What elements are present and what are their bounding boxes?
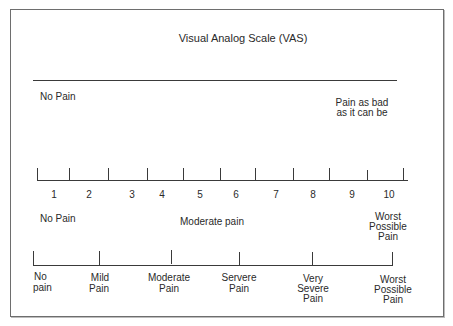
scale-number: 8 [310,189,316,200]
vas-left-label: No Pain [40,91,76,102]
scale-number: 5 [197,189,203,200]
descriptive-label-no-pain-2: pain [33,282,52,293]
numeric-tick [108,168,109,180]
scale-number: 4 [159,189,165,200]
numeric-tick [367,170,368,180]
descriptive-label-no-pain-1: No [34,271,47,282]
vas-right-label-2: as it can be [336,107,387,118]
descriptive-scale-line [33,265,393,266]
descriptive-label-mild-2: Pain [89,283,109,294]
descriptive-label-severe-2: Pain [229,283,249,294]
descriptive-tick [171,250,172,264]
descriptive-tick [392,252,393,265]
descriptive-label-worst-3: Pain [383,294,403,305]
scale-number: 6 [233,189,239,200]
scale-number: 7 [273,189,279,200]
numeric-tick [293,168,294,180]
numeric-tick [329,168,330,180]
numeric-tick [255,168,256,180]
scale-number: 2 [86,189,92,200]
descriptive-label-moderate-2: Pain [159,283,179,294]
numeric-scale-line [37,180,408,181]
numeric-left-label: No Pain [40,213,76,224]
numeric-middle-label: Moderate pain [180,216,244,227]
descriptive-label-mild-1: Mild [91,272,109,283]
numeric-right-label-3: Pain [378,231,398,242]
numeric-tick [183,168,184,180]
descriptive-tick [99,251,100,265]
descriptive-label-moderate-1: Moderate [148,272,190,283]
descriptive-tick [33,251,34,265]
descriptive-label-very-severe-3: Pain [303,293,323,304]
descriptive-tick [239,252,240,265]
diagram-title: Visual Analog Scale (VAS) [179,33,308,44]
numeric-tick [403,168,404,180]
scale-number: 3 [129,189,135,200]
diagram-frame [10,9,444,317]
numeric-tick [147,168,148,180]
descriptive-tick [312,252,313,265]
numeric-tick [69,168,70,180]
numeric-tick [220,168,221,180]
scale-number: 10 [383,189,394,200]
descriptive-label-severe-1: Servere [221,272,256,283]
scale-number: 1 [51,189,57,200]
scale-number: 9 [349,189,355,200]
numeric-tick [37,168,38,180]
vas-line [33,80,397,81]
